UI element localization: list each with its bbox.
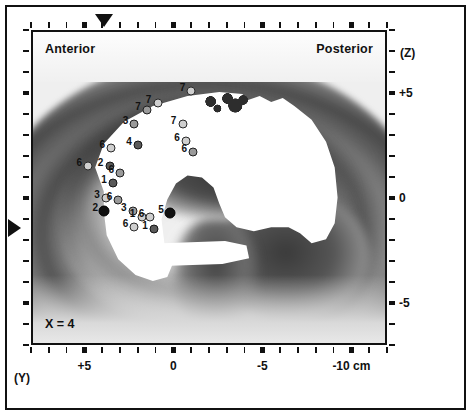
crosshair-top-pointer-icon [95,14,113,27]
z-major-tick [389,301,395,306]
z-minor-tick [23,281,29,283]
source-marker-label: 1 [142,220,148,231]
source-marker [130,120,139,129]
source-marker-label: 3 [121,201,127,212]
x-minor-tick [155,347,157,353]
x-minor-tick [208,347,210,353]
source-marker [84,162,93,171]
z-minor-tick [389,155,395,157]
x-tick-label: -10 cm [332,359,370,373]
x-minor-tick [226,347,228,353]
x-tick-label: 0 [170,359,177,373]
x-axis-name: (Y) [14,371,30,385]
z-major-tick [23,91,29,96]
x-minor-tick [101,347,103,353]
z-minor-tick [23,218,29,220]
x-minor-tick [297,347,299,353]
x-minor-tick [101,22,103,28]
source-marker-label: 2 [98,157,104,168]
source-marker-label: 6 [181,142,187,153]
z-minor-tick [389,260,395,262]
z-minor-tick [389,134,395,136]
z-minor-tick [23,134,29,136]
source-marker-label: 6 [100,138,106,149]
source-marker-label: 1 [101,174,107,185]
x-minor-tick [368,347,370,353]
x-minor-tick [279,22,281,28]
x-minor-tick [244,22,246,28]
x-minor-tick [226,22,228,28]
source-marker [178,120,187,129]
x-minor-tick [333,22,335,28]
x-minor-tick [66,347,68,353]
source-marker-label: 7 [146,94,152,105]
source-marker-label: 7 [171,115,177,126]
x-minor-tick [386,22,388,28]
x-major-tick [171,347,176,353]
x-minor-tick [315,347,317,353]
source-marker-label: 3 [94,188,100,199]
z-minor-tick [389,239,395,241]
source-marker [153,99,162,108]
x-major-tick [260,347,265,353]
source-marker-label: 3 [123,115,129,126]
z-minor-tick [23,176,29,178]
z-minor-tick [23,113,29,115]
source-marker [109,179,118,188]
z-minor-tick [23,344,29,346]
x-major-tick [349,347,354,353]
source-marker-label: 6 [123,218,129,229]
x-minor-tick [30,22,32,28]
x-major-tick [260,22,265,28]
y-axis-name: (Z) [400,46,415,60]
z-major-tick [389,91,395,96]
z-tick-label: -5 [399,296,410,310]
x-minor-tick [190,347,192,353]
x-minor-tick [155,22,157,28]
x-minor-tick [279,347,281,353]
x-minor-tick [119,22,121,28]
z-minor-tick [23,155,29,157]
source-marker [165,207,176,218]
slice-label: X = 4 [45,317,75,331]
z-major-tick [23,301,29,306]
source-marker [187,86,196,95]
source-marker [130,223,139,232]
activation-speckle [195,91,251,116]
z-minor-tick [389,344,395,346]
source-marker [134,141,143,150]
x-minor-tick [368,22,370,28]
x-minor-tick [119,347,121,353]
source-marker [99,205,110,216]
source-marker [189,147,198,156]
x-minor-tick [297,22,299,28]
x-major-tick [82,22,87,28]
source-marker [142,105,151,114]
source-marker-label: 5 [158,203,164,214]
z-tick-label: +5 [399,86,413,100]
source-marker-label: 6 [76,157,82,168]
x-minor-tick [315,22,317,28]
z-minor-tick [23,239,29,241]
x-minor-tick [30,347,32,353]
x-minor-tick [48,22,50,28]
x-tick-label: -5 [257,359,268,373]
x-minor-tick [386,347,388,353]
crosshair-left-pointer-icon [8,219,21,237]
x-major-tick [171,22,176,28]
source-marker-label: 6 [108,163,114,174]
source-marker [116,168,125,177]
z-minor-tick [389,29,395,31]
scan-panel: Anterior Posterior X = 4 777736646626136… [31,30,387,345]
z-minor-tick [23,323,29,325]
top-background-layer [33,32,385,82]
x-minor-tick [66,22,68,28]
source-marker-label: 2 [92,201,98,212]
z-minor-tick [23,260,29,262]
z-minor-tick [389,176,395,178]
z-major-tick [23,196,29,201]
source-marker-label: 6 [174,132,180,143]
z-major-tick [389,196,395,201]
x-minor-tick [137,347,139,353]
z-minor-tick [389,50,395,52]
